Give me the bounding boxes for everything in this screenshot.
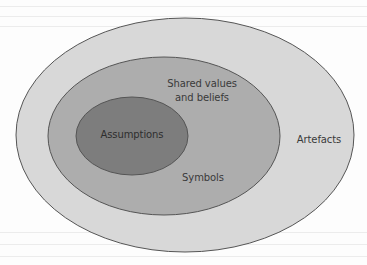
label-shared-values-line1: Shared values <box>166 77 238 91</box>
label-assumptions: Assumptions <box>98 128 166 142</box>
label-symbols: Symbols <box>178 171 228 185</box>
diagram-canvas: Shared values and beliefs Assumptions Sy… <box>0 0 367 265</box>
label-shared-values-line2: and beliefs <box>166 91 238 105</box>
label-shared-values: Shared values and beliefs <box>166 77 238 105</box>
label-artefacts: Artefacts <box>294 133 344 147</box>
